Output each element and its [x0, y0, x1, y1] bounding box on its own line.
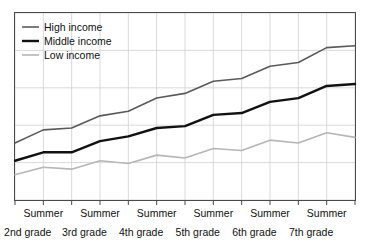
- x-label-grade-3: 4th grade: [119, 226, 164, 238]
- x-label-summer-5: Summer: [250, 207, 290, 219]
- x-label-summer-2: Summer: [80, 207, 120, 219]
- x-label-summer-4: Summer: [193, 207, 233, 219]
- legend-label-high-income: High income: [44, 21, 103, 33]
- line-chart: High incomeMiddle incomeLow income Summe…: [0, 0, 379, 252]
- chart-container: High incomeMiddle incomeLow income Summe…: [0, 0, 379, 252]
- x-label-summer-6: Summer: [307, 207, 347, 219]
- x-label-grade-4: 5th grade: [176, 226, 221, 238]
- x-label-grade-5: 6th grade: [232, 226, 277, 238]
- x-label-grade-6: 7th grade: [289, 226, 334, 238]
- x-label-summer-3: Summer: [137, 207, 177, 219]
- x-label-summer-1: Summer: [23, 207, 63, 219]
- legend-label-low-income: Low income: [44, 49, 100, 61]
- chart-legend: High incomeMiddle incomeLow income: [22, 21, 112, 61]
- x-label-grade-1: 2nd grade: [4, 226, 51, 238]
- x-label-grade-2: 3rd grade: [62, 226, 107, 238]
- legend-label-middle-income: Middle income: [44, 35, 112, 47]
